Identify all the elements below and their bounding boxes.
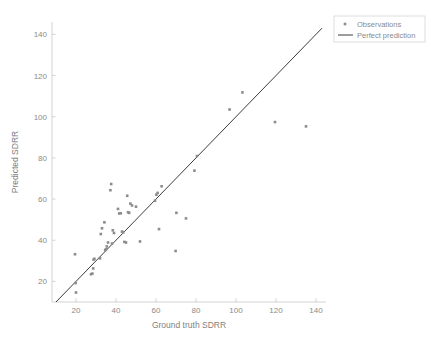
observation-marker	[196, 155, 199, 158]
x-axis-title: Ground truth SDRR	[152, 320, 226, 330]
observation-marker	[117, 208, 120, 211]
perfect-prediction-line	[56, 28, 322, 302]
legend-item-label[interactable]: Observations	[357, 20, 401, 29]
observation-marker	[93, 257, 96, 260]
observation-markers	[74, 91, 308, 294]
y-axis-title: Predicted SDRR	[10, 131, 20, 193]
y-tick-label: 60	[38, 195, 47, 204]
observation-marker	[109, 189, 112, 192]
observation-marker	[113, 232, 116, 235]
x-tick-label: 20	[72, 306, 81, 315]
observation-marker	[135, 205, 138, 208]
y-axis-tick-labels: 20406080100120140	[34, 30, 48, 286]
x-axis-tick-labels: 20406080100120140	[72, 306, 324, 315]
observation-marker	[99, 257, 102, 260]
observation-marker	[305, 125, 308, 128]
y-tick-label: 140	[34, 30, 48, 39]
observation-marker	[112, 229, 115, 232]
observation-marker	[139, 240, 142, 243]
observation-marker	[160, 185, 163, 188]
observation-marker	[175, 212, 178, 215]
y-axis-ticks	[52, 34, 56, 281]
observation-marker	[125, 241, 128, 244]
observation-marker	[154, 199, 157, 202]
y-tick-label: 20	[38, 277, 47, 286]
y-tick-label: 120	[34, 72, 48, 81]
y-tick-label: 40	[38, 236, 47, 245]
observation-marker	[193, 169, 196, 172]
observation-marker	[107, 241, 110, 244]
x-tick-label: 140	[309, 306, 323, 315]
observation-marker	[101, 227, 104, 230]
observation-marker	[91, 272, 94, 275]
observation-marker	[74, 253, 77, 256]
observation-marker	[120, 212, 123, 215]
figure-canvas: 20406080100120140 20406080100120140 Grou…	[0, 0, 431, 342]
x-tick-label: 100	[229, 306, 243, 315]
observation-marker	[74, 282, 77, 285]
scatter-plot: 20406080100120140 20406080100120140 Grou…	[0, 0, 431, 342]
y-tick-label: 100	[34, 113, 48, 122]
observation-marker	[103, 221, 106, 224]
observation-marker	[92, 267, 95, 270]
observation-marker	[156, 192, 159, 195]
legend-item-label[interactable]: Perfect prediction	[357, 31, 415, 40]
observation-marker	[110, 183, 113, 186]
y-tick-label: 80	[38, 154, 47, 163]
x-tick-label: 60	[152, 306, 161, 315]
observation-marker	[158, 228, 161, 231]
observation-marker	[106, 245, 109, 248]
x-axis-ticks	[76, 299, 316, 303]
x-tick-label: 120	[269, 306, 283, 315]
observation-marker	[75, 291, 78, 294]
observation-marker	[111, 242, 114, 245]
legend[interactable]: ObservationsPerfect prediction	[334, 16, 425, 42]
observation-marker	[100, 233, 103, 236]
observation-marker	[174, 250, 177, 253]
observation-marker	[128, 212, 131, 215]
observation-marker	[185, 217, 188, 220]
observation-marker	[105, 248, 108, 251]
x-tick-label: 80	[192, 306, 201, 315]
observation-marker	[274, 121, 277, 124]
observation-marker	[131, 204, 134, 207]
legend-marker-observations	[344, 23, 347, 26]
observation-marker	[122, 231, 125, 234]
observation-marker	[241, 91, 244, 94]
observation-marker	[126, 194, 129, 197]
observation-marker	[228, 108, 231, 111]
x-tick-label: 40	[112, 306, 121, 315]
